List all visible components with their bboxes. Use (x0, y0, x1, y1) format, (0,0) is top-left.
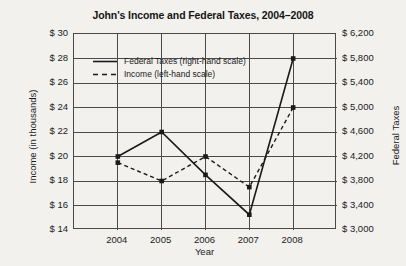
chart-container: John's Income and Federal Taxes, 2004–20… (0, 0, 406, 266)
chart-legend: Federal Taxes (right-hand scale)Income (… (92, 55, 246, 81)
y-axis-left-tick-label: $ 28 (50, 53, 69, 63)
data-point-marker (159, 179, 164, 184)
legend-item: Federal Taxes (right-hand scale) (92, 55, 246, 68)
chart-title: John's Income and Federal Taxes, 2004–20… (0, 9, 406, 21)
y-axis-right-title: Federal Taxes (390, 81, 401, 191)
y-axis-left-tick-label: $ 22 (50, 126, 69, 136)
data-point-marker (291, 105, 296, 110)
x-axis-tick-label: 2007 (238, 235, 259, 245)
y-axis-right-tick-label: $ 6,200 (342, 28, 374, 38)
y-axis-right-tick-label: $ 4,600 (342, 126, 374, 136)
legend-swatch-dashed-icon (92, 70, 118, 79)
data-point-marker (203, 154, 208, 159)
data-point-marker (291, 56, 296, 61)
y-axis-right-tick-label: $ 4,200 (342, 151, 374, 161)
y-axis-left-tick-label: $ 20 (50, 151, 69, 161)
y-axis-left-tick-label: $ 18 (50, 175, 69, 185)
x-axis-tick-label: 2006 (194, 235, 215, 245)
y-axis-right-tick-label: $ 5,800 (342, 53, 374, 63)
legend-swatch-solid-icon (92, 57, 118, 66)
y-axis-right-tick-label: $ 3,800 (342, 175, 374, 185)
y-axis-right-tick-label: $ 3,400 (342, 200, 374, 210)
y-axis-right-tick-label: $ 3,000 (342, 224, 374, 234)
legend-item: Income (left-hand scale) (92, 68, 246, 81)
data-point-marker (247, 185, 252, 190)
x-axis-title: Year (73, 246, 336, 257)
y-axis-right-tick-label: $ 5,000 (342, 102, 374, 112)
y-axis-left-tick-label: $ 30 (50, 28, 69, 38)
legend-label: Income (left-hand scale) (124, 70, 215, 79)
y-axis-left-title: Income (in thousands) (27, 57, 38, 217)
x-axis-tick-label: 2004 (106, 235, 127, 245)
data-point-marker (159, 130, 164, 135)
data-point-marker (247, 212, 252, 217)
legend-label: Federal Taxes (right-hand scale) (124, 57, 246, 66)
data-point-marker (116, 160, 121, 165)
x-axis-tick-label: 2008 (282, 235, 303, 245)
y-axis-left-tick-label: $ 16 (50, 200, 69, 210)
x-axis-tick-label: 2005 (150, 235, 171, 245)
y-axis-left-tick-label: $ 24 (50, 102, 69, 112)
data-point-marker (203, 173, 208, 178)
y-axis-left-tick-label: $ 26 (50, 77, 69, 87)
y-axis-left-tick-label: $ 14 (50, 224, 69, 234)
y-axis-right-tick-label: $ 5,400 (342, 77, 374, 87)
data-point-marker (116, 154, 121, 159)
series-line-0 (118, 59, 293, 215)
